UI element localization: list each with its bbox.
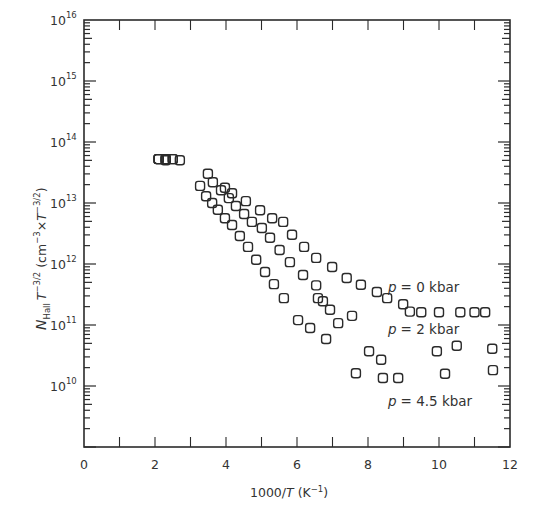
data-point: [300, 242, 309, 251]
data-point: [299, 270, 308, 279]
data-point: [356, 280, 365, 289]
y-axis-title: NHallT−3/2 (cm−3×T−3/2): [32, 187, 52, 330]
x-axis-title: 1000/T (K−1): [250, 484, 328, 500]
series-p-4-5-kbar: [154, 155, 497, 383]
y-tick-label: 1014: [50, 132, 77, 150]
data-point: [342, 274, 351, 283]
x-tick-label: 8: [364, 457, 372, 472]
y-tick-label: 1010: [50, 376, 77, 394]
data-point: [470, 308, 479, 317]
data-point: [456, 308, 465, 317]
data-point: [432, 347, 441, 356]
data-point: [326, 305, 335, 314]
data-point: [452, 341, 461, 350]
data-point: [394, 374, 403, 383]
y-tick-labels: 1010101110121013101410151016: [50, 10, 77, 394]
data-point: [202, 192, 211, 201]
data-point: [383, 294, 392, 303]
x-tick-label: 6: [293, 457, 301, 472]
x-tick-label: 0: [80, 457, 88, 472]
x-tick-label: 12: [502, 457, 518, 472]
data-point: [266, 233, 275, 242]
data-point: [261, 267, 270, 276]
data-point: [213, 205, 222, 214]
data-point: [241, 197, 250, 206]
x-tick-labels: 024681012: [80, 457, 518, 472]
data-point: [348, 311, 357, 320]
data-point: [372, 288, 381, 297]
legend-p2: p= 2 kbar: [387, 321, 460, 337]
data-point: [231, 202, 240, 211]
data-point: [275, 245, 284, 254]
x-tick-label: 10: [431, 457, 447, 472]
data-point: [328, 263, 337, 272]
data-point: [294, 316, 303, 325]
data-point: [306, 324, 315, 333]
data-point: [441, 369, 450, 378]
y-tick-label: 1016: [50, 10, 77, 28]
data-point: [378, 374, 387, 383]
data-point: [481, 308, 490, 317]
x-tick-label: 2: [151, 457, 159, 472]
x-tick-label: 4: [222, 457, 230, 472]
data-point: [285, 258, 294, 267]
data-point: [322, 335, 331, 344]
data-point: [279, 294, 288, 303]
data-point: [334, 319, 343, 328]
data-point: [203, 169, 212, 178]
data-point: [256, 206, 265, 215]
data-point: [417, 308, 426, 317]
data-point: [196, 181, 205, 190]
data-point: [240, 209, 249, 218]
data-point: [288, 230, 297, 239]
legend-p0: p= 0 kbar: [387, 279, 460, 295]
data-point: [377, 355, 386, 364]
data-point: [312, 253, 321, 262]
y-tick-label: 1015: [50, 71, 77, 89]
data-point: [435, 308, 444, 317]
y-tick-label: 1012: [50, 254, 77, 272]
y-tick-label: 1011: [50, 315, 77, 333]
data-point: [235, 231, 244, 240]
data-points: [154, 155, 497, 383]
data-point: [488, 344, 497, 353]
legend-p45: p= 4.5 kbar: [387, 393, 473, 409]
data-point: [279, 217, 288, 226]
data-point: [268, 214, 277, 223]
data-point: [247, 217, 256, 226]
data-point: [488, 366, 497, 375]
data-point: [269, 280, 278, 289]
data-point: [208, 199, 217, 208]
data-point: [208, 178, 217, 187]
data-point: [365, 347, 374, 356]
data-point: [257, 224, 266, 233]
data-point: [312, 281, 321, 290]
data-point: [252, 255, 261, 264]
hall-concentration-chart: 1010101110121013101410151016 024681012 p…: [0, 0, 533, 508]
data-point: [351, 369, 360, 378]
data-point: [244, 242, 253, 251]
y-tick-label: 1013: [50, 193, 77, 211]
